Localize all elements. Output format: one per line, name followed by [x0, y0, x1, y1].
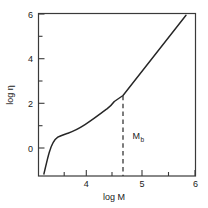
x-axis-title: log M [103, 192, 125, 202]
x-tick-label-4: 4 [84, 179, 89, 189]
mb-label-subscript: b [141, 136, 145, 143]
data-series-log-eta [44, 15, 186, 174]
figure-container: 0 2 4 6 4 5 6 M b [0, 0, 208, 208]
y-tick-label-4: 4 [28, 54, 33, 64]
mb-label: M [133, 131, 141, 141]
x-axis-tick-labels: 4 5 6 [84, 179, 198, 189]
y-axis-title: log η [5, 85, 15, 105]
y-axis-ticks [39, 14, 45, 148]
y-tick-label-0: 0 [28, 144, 33, 154]
curve-path [44, 15, 186, 174]
y-tick-label-6: 6 [28, 10, 33, 20]
plot-frame [39, 14, 196, 177]
x-tick-label-5: 5 [139, 179, 144, 189]
y-tick-label-2: 2 [28, 99, 33, 109]
y-axis-tick-labels: 0 2 4 6 [28, 10, 33, 154]
annotation-mb: M b [123, 96, 145, 176]
axis-titles: log M log η [5, 85, 125, 202]
chart-canvas: 0 2 4 6 4 5 6 M b [0, 0, 208, 208]
x-tick-label-6: 6 [193, 179, 198, 189]
axes-border [39, 14, 196, 177]
x-axis-ticks [64, 170, 195, 176]
